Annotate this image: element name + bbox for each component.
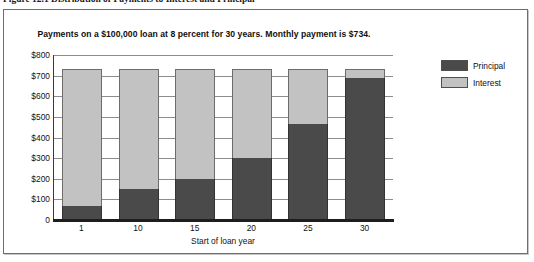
bar-column[interactable]: [175, 69, 215, 220]
figure-caption-strip: Figure 12.1 Distribution of Payments to …: [0, 0, 534, 9]
plot-area: [53, 55, 393, 220]
bar-segment-interest[interactable]: [175, 69, 215, 179]
bar-column[interactable]: [288, 69, 328, 220]
bar-segment-principal[interactable]: [288, 124, 328, 220]
plot-wrapper: 0$100$200$300$400$500$600$700$800: [53, 55, 393, 220]
bar-column[interactable]: [232, 69, 272, 220]
y-axis-tick-label: $500: [6, 112, 50, 122]
bar-segment-principal[interactable]: [119, 189, 159, 220]
bar-segment-interest[interactable]: [345, 69, 385, 78]
bar-segment-interest[interactable]: [288, 69, 328, 124]
bar-segment-principal[interactable]: [175, 179, 215, 220]
bar-segment-interest[interactable]: [119, 69, 159, 189]
legend-item[interactable]: Principal: [441, 60, 505, 71]
y-axis-tick-label: 0: [6, 215, 50, 225]
x-axis-tick-label: 25: [288, 223, 328, 233]
legend-item[interactable]: Interest: [441, 77, 505, 88]
bar-column[interactable]: [119, 69, 159, 220]
bar-segment-interest[interactable]: [232, 69, 272, 159]
bar-segment-principal[interactable]: [345, 78, 385, 220]
legend-label: Principal: [473, 61, 505, 71]
y-axis-tick-label: $400: [6, 133, 50, 143]
y-axis-tick-label: $100: [6, 194, 50, 204]
legend-swatch-icon: [441, 77, 468, 88]
bar-segment-interest[interactable]: [62, 69, 102, 207]
figure-caption: Figure 12.1 Distribution of Payments to …: [3, 0, 255, 4]
y-axis-tick-label: $300: [6, 153, 50, 163]
bar-column[interactable]: [345, 69, 385, 220]
bar-column[interactable]: [62, 69, 102, 220]
x-axis-tick-label: 20: [231, 223, 271, 233]
y-axis-tick-labels: 0$100$200$300$400$500$600$700$800: [6, 55, 50, 220]
x-axis-tick-label: 10: [118, 223, 158, 233]
bar-segment-principal[interactable]: [232, 158, 272, 220]
bars-layer: [54, 55, 393, 220]
chart-card: Payments on a $100,000 loan at 8 percent…: [3, 9, 528, 254]
x-axis-tick-labels: 11015202530: [53, 223, 393, 233]
x-axis-tick-label: 1: [61, 223, 101, 233]
y-axis-tick-label: $200: [6, 174, 50, 184]
bar-segment-principal[interactable]: [62, 206, 102, 220]
chart-title: Payments on a $100,000 loan at 8 percent…: [4, 29, 404, 39]
x-axis-line: [53, 219, 394, 222]
x-axis-tick-label: 15: [175, 223, 215, 233]
y-axis-tick-label: $700: [6, 71, 50, 81]
chart-legend: PrincipalInterest: [441, 60, 505, 94]
x-axis-title: Start of loan year: [53, 236, 393, 246]
x-axis-tick-label: 30: [345, 223, 385, 233]
legend-swatch-icon: [441, 60, 468, 71]
y-axis-tick-label: $800: [6, 50, 50, 60]
y-axis-tick-label: $600: [6, 91, 50, 101]
legend-label: Interest: [473, 78, 501, 88]
